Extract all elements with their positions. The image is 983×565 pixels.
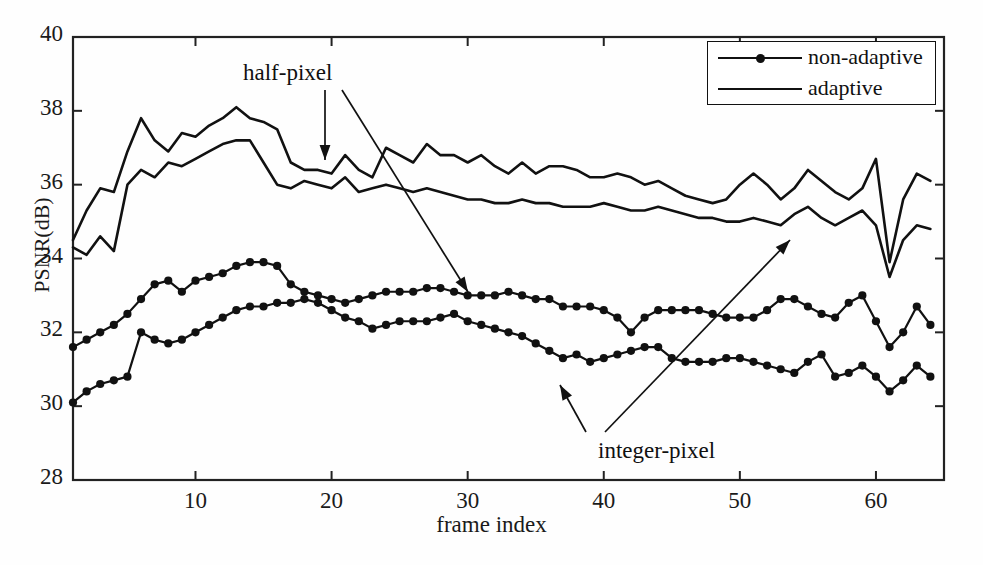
- series-marker: [178, 336, 186, 344]
- x-tick-label: 20: [312, 488, 352, 514]
- series-marker: [219, 269, 227, 277]
- y-tick-label: 28: [11, 464, 63, 490]
- series-marker: [926, 373, 934, 381]
- series-marker: [450, 288, 458, 296]
- series-marker: [681, 358, 689, 366]
- legend-label-non-adaptive: non-adaptive: [808, 44, 923, 70]
- series-marker: [205, 321, 213, 329]
- series-marker: [191, 328, 199, 336]
- series-marker: [314, 299, 322, 307]
- series-marker: [287, 299, 295, 307]
- series-marker: [96, 380, 104, 388]
- series-marker: [749, 313, 757, 321]
- series-marker: [341, 313, 349, 321]
- series-marker: [817, 310, 825, 318]
- series-marker: [763, 361, 771, 369]
- series-line-1: [73, 140, 930, 277]
- psnr-frame-index-chart: PSNR(dB) frame index half-pixel integer-…: [0, 0, 983, 565]
- series-marker: [368, 291, 376, 299]
- series-marker: [545, 295, 553, 303]
- series-marker: [69, 398, 77, 406]
- series-marker: [504, 328, 512, 336]
- series-marker: [545, 347, 553, 355]
- series-marker: [110, 376, 118, 384]
- y-tick-label: 32: [11, 316, 63, 342]
- series-marker: [123, 310, 131, 318]
- series-marker: [110, 321, 118, 329]
- series-marker: [83, 387, 91, 395]
- y-tick-label: 30: [11, 390, 63, 416]
- series-marker: [423, 317, 431, 325]
- series-marker: [368, 325, 376, 333]
- series-marker: [491, 325, 499, 333]
- series-marker: [709, 358, 717, 366]
- series-marker: [518, 332, 526, 340]
- series-marker: [491, 291, 499, 299]
- series-marker: [613, 313, 621, 321]
- series-marker: [640, 343, 648, 351]
- annotation-integer-pixel: integer-pixel: [598, 438, 715, 464]
- series-marker: [831, 373, 839, 381]
- series-marker: [627, 328, 635, 336]
- series-marker: [246, 258, 254, 266]
- legend-sample-plain-line: [718, 73, 802, 105]
- series-marker: [532, 295, 540, 303]
- series-marker: [178, 288, 186, 296]
- series-marker: [259, 302, 267, 310]
- series-marker: [722, 354, 730, 362]
- series-marker: [899, 376, 907, 384]
- series-marker: [926, 321, 934, 329]
- series-marker: [572, 350, 580, 358]
- legend-dot-icon: [756, 54, 765, 63]
- series-marker: [327, 306, 335, 314]
- series-marker: [464, 317, 472, 325]
- series-marker: [518, 291, 526, 299]
- series-marker: [804, 302, 812, 310]
- data-series-layer: [69, 107, 935, 406]
- series-marker: [654, 343, 662, 351]
- series-marker: [559, 354, 567, 362]
- series-marker: [763, 306, 771, 314]
- x-tick-label: 30: [448, 488, 488, 514]
- series-marker: [423, 284, 431, 292]
- legend-line-icon: [718, 88, 802, 90]
- series-line-0: [73, 107, 930, 262]
- series-marker: [831, 313, 839, 321]
- series-marker: [151, 336, 159, 344]
- series-marker: [191, 277, 199, 285]
- series-marker: [273, 262, 281, 270]
- series-marker: [123, 373, 131, 381]
- series-line-3: [73, 299, 930, 402]
- series-marker: [436, 284, 444, 292]
- series-marker: [396, 317, 404, 325]
- series-marker: [913, 361, 921, 369]
- series-marker: [777, 365, 785, 373]
- series-line-2: [73, 262, 930, 347]
- series-marker: [232, 262, 240, 270]
- series-marker: [300, 288, 308, 296]
- series-marker: [845, 369, 853, 377]
- series-marker: [246, 302, 254, 310]
- legend-entry-non-adaptive: non-adaptive: [708, 42, 937, 74]
- series-marker: [259, 258, 267, 266]
- series-marker: [668, 306, 676, 314]
- series-marker: [872, 317, 880, 325]
- series-marker: [668, 354, 676, 362]
- series-marker: [913, 302, 921, 310]
- series-marker: [790, 369, 798, 377]
- x-tick-label: 60: [856, 488, 896, 514]
- series-marker: [872, 373, 880, 381]
- series-marker: [572, 302, 580, 310]
- series-marker: [464, 291, 472, 299]
- series-marker: [695, 358, 703, 366]
- series-marker: [804, 358, 812, 366]
- series-marker: [300, 295, 308, 303]
- series-marker: [504, 288, 512, 296]
- series-marker: [695, 306, 703, 314]
- series-marker: [586, 358, 594, 366]
- series-marker: [845, 299, 853, 307]
- series-marker: [355, 295, 363, 303]
- series-marker: [654, 306, 662, 314]
- series-marker: [885, 343, 893, 351]
- series-marker: [477, 291, 485, 299]
